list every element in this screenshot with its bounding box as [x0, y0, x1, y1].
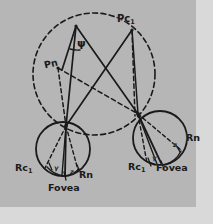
label-pc1: Pc1	[117, 14, 135, 26]
figure-root: Pc1 Pn ψ Rc1 Rn Fovea γ z Rc1 Rn Fovea γ…	[0, 0, 213, 224]
diagram-canvas	[0, 0, 213, 224]
label-left-rc1: Rc1	[15, 163, 32, 175]
label-left-rn: Rn	[79, 170, 93, 180]
label-psi-angle: ψ	[77, 38, 86, 49]
label-left-fovea: Fovea	[48, 183, 80, 193]
label-left-rc1-main: Rc	[15, 162, 28, 173]
label-right-rn: Rn	[186, 133, 200, 143]
label-right-rc1: Rc1	[128, 162, 145, 174]
label-left-rc1-subscript: 1	[28, 167, 33, 175]
horopter-circle	[33, 13, 155, 135]
label-right-gamma: γ	[152, 155, 156, 162]
point-pc1	[130, 28, 133, 31]
label-right-rc1-subscript: 1	[141, 166, 146, 174]
point-right-nodal	[136, 112, 140, 116]
label-pc1-subscript: 1	[130, 18, 135, 26]
label-pc1-main: Pc	[117, 13, 130, 24]
label-right-rc1-main: Rc	[128, 161, 141, 172]
ray-pn-left-nodal	[58, 68, 66, 126]
label-left-z: z	[70, 169, 74, 176]
label-right-z: z	[173, 142, 177, 149]
label-right-fovea: Fovea	[156, 163, 188, 173]
label-left-gamma: γ	[54, 165, 58, 172]
point-left-nodal	[64, 124, 68, 128]
point-apex	[74, 24, 77, 27]
